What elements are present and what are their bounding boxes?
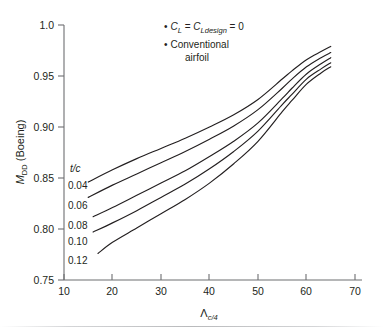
y-tick-label-0.80: 0.80 — [34, 223, 55, 235]
series-label-0.06: 0.06 — [68, 200, 88, 211]
data-curves-group — [88, 46, 331, 253]
x-tick-label-40: 40 — [203, 285, 215, 297]
axes-group — [58, 25, 362, 280]
y-tick-label-0.90: 0.90 — [34, 121, 55, 133]
x-tick-label-10: 10 — [58, 285, 70, 297]
note-cldesign-subscript: Ldesign — [201, 26, 227, 35]
series-label-0.10: 0.10 — [68, 236, 88, 247]
y-tick-label-0.85: 0.85 — [34, 172, 55, 184]
series-legend-header: t/c — [70, 163, 81, 174]
note-cl-design: •CL = CLdesign = 0 — [164, 21, 244, 35]
y-tick-marks — [58, 25, 64, 280]
note-conventional-airfoil: •Conventional — [164, 39, 229, 50]
x-axis-title: Λc/4 — [200, 307, 217, 322]
x-tick-label-20: 20 — [106, 285, 118, 297]
note-bullet-icon: • — [164, 21, 168, 32]
x-axis-title-subscript: c/4 — [208, 313, 218, 322]
svg-text:Λc/4: Λc/4 — [200, 307, 217, 322]
x-tick-label-60: 60 — [300, 285, 312, 297]
note-bullet-icon-2: • — [164, 39, 168, 50]
y-axis-title: MDD (Boeing) — [14, 120, 29, 185]
svg-text:MDD (Boeing): MDD (Boeing) — [14, 120, 29, 185]
x-tick-marks — [64, 274, 355, 280]
chart-figure: 1.0 0.95 0.90 0.85 0.80 0.75 10 20 30 40… — [0, 0, 383, 333]
footer-divider — [0, 326, 383, 327]
mdd-vs-sweep-chart: 1.0 0.95 0.90 0.85 0.80 0.75 10 20 30 40… — [0, 0, 383, 333]
series-label-0.12: 0.12 — [68, 255, 88, 266]
curve-tc-0.06 — [88, 53, 331, 198]
y-tick-label-0.75: 0.75 — [34, 274, 55, 286]
x-tick-label-30: 30 — [155, 285, 167, 297]
note-equals-1: = — [182, 21, 193, 32]
y-axis-title-suffix: (Boeing) — [14, 120, 26, 165]
series-label-0.08: 0.08 — [68, 220, 88, 231]
curve-tc-0.04 — [88, 46, 331, 182]
series-legend: t/c 0.04 0.06 0.08 0.10 0.12 — [68, 163, 88, 266]
x-tick-labels: 10 20 30 40 50 60 70 — [58, 285, 361, 297]
y-tick-label-0.95: 0.95 — [34, 70, 55, 82]
y-axis-title-subscript: DD — [20, 164, 29, 175]
x-tick-label-50: 50 — [252, 285, 264, 297]
annotation-notes: •CL = CLdesign = 0 •Conventional airfoil — [164, 21, 244, 63]
note-conventional-text: Conventional — [171, 39, 229, 50]
y-tick-label-1.0: 1.0 — [39, 19, 54, 31]
note-equals-zero: = 0 — [227, 21, 244, 32]
x-tick-label-70: 70 — [349, 285, 361, 297]
curve-tc-0.08 — [93, 58, 331, 217]
y-tick-labels: 1.0 0.95 0.90 0.85 0.80 0.75 — [34, 19, 55, 286]
note-airfoil-text: airfoil — [185, 52, 209, 63]
series-label-0.04: 0.04 — [68, 180, 88, 191]
curve-tc-0.10 — [93, 63, 331, 232]
